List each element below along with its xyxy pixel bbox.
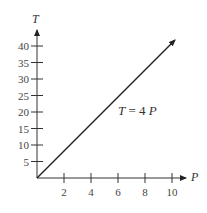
x-tick-label: 4 [88, 186, 94, 198]
y-ticks: 5 10 15 20 25 30 35 40 [18, 40, 43, 168]
y-tick-label: 10 [18, 139, 30, 151]
x-tick-label: 2 [61, 186, 67, 198]
x-tick-label: 8 [142, 186, 148, 198]
y-tick-label: 35 [18, 57, 30, 69]
x-tick-label: 6 [115, 186, 121, 198]
y-tick-label: 30 [18, 73, 30, 85]
y-tick-label: 20 [18, 106, 30, 118]
y-tick-label: 40 [18, 40, 30, 52]
x-tick-label: 10 [167, 186, 179, 198]
y-tick-label: 15 [18, 123, 30, 135]
y-tick-label: 25 [18, 90, 30, 102]
y-tick-label: 5 [24, 156, 30, 168]
equation-annotation: T = 4 P [118, 103, 157, 118]
y-axis-label: T [32, 12, 40, 26]
x-axis-label: P [190, 170, 199, 184]
x-ticks: 2 4 6 8 10 [61, 173, 178, 198]
chart: P T 2 4 6 8 10 5 10 15 20 25 30 35 40 T … [0, 0, 207, 213]
